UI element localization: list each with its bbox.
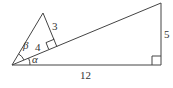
label-4: 4 (35, 41, 41, 53)
label-beta: β (22, 39, 29, 51)
label-12: 12 (80, 69, 91, 81)
right-angle-marker-large (152, 56, 161, 65)
label-3: 3 (52, 20, 58, 32)
label-5: 5 (164, 28, 170, 40)
beta-arc (19, 54, 24, 60)
geometry-diagram: 3 4 5 12 β α (0, 0, 173, 88)
label-alpha: α (32, 53, 38, 65)
alpha-arc (29, 58, 30, 65)
